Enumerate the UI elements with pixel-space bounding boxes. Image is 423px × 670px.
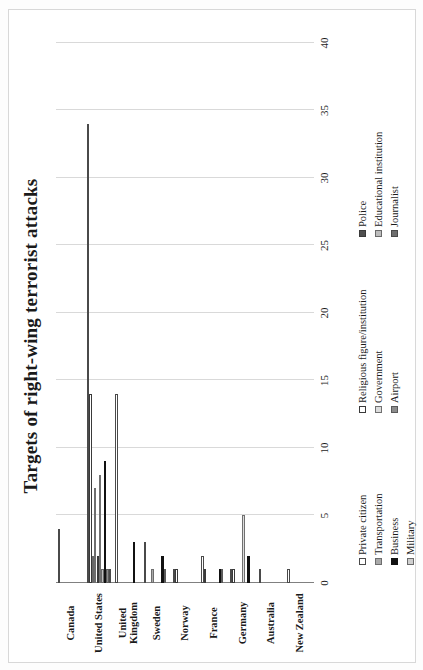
legend-label: Transportation: [373, 494, 384, 555]
chart-legend: Private citizenReligious figure/institut…: [354, 45, 406, 565]
chart-title: Targets of right-wing terrorist attacks: [20, 11, 42, 661]
legend-item[interactable]: Private citizen: [354, 419, 370, 565]
legend-item[interactable]: Government: [370, 243, 386, 413]
bar: [58, 529, 60, 583]
bar-group: [142, 43, 171, 583]
legend-swatch-icon: [391, 558, 398, 565]
bar: [204, 570, 206, 584]
bar: [104, 462, 106, 584]
bar: [89, 394, 91, 583]
bar: [287, 570, 289, 584]
value-axis-tick: 5: [318, 513, 330, 519]
legend-item[interactable]: Business: [386, 419, 402, 565]
legend-item[interactable]: Airport: [386, 243, 402, 413]
legend-item[interactable]: Transportation: [370, 419, 386, 565]
legend-item[interactable]: Police: [354, 105, 370, 237]
legend-label: Religious figure/institution: [357, 290, 368, 403]
category-label: France: [199, 587, 228, 659]
bar: [259, 570, 261, 584]
bar-group: [199, 43, 228, 583]
legend-swatch-icon: [375, 230, 382, 237]
bar: [221, 570, 223, 584]
bar-group: [228, 43, 257, 583]
bar-group: [285, 43, 314, 583]
bar: [175, 570, 177, 584]
bar: [242, 516, 244, 584]
legend-item[interactable]: Religious figure/institution: [354, 243, 370, 413]
bar-group: [85, 43, 114, 583]
bar: [164, 570, 166, 584]
category-label: Sweden: [142, 587, 171, 659]
chart-frame: Targets of right-wing terrorist attacks …: [8, 9, 416, 663]
category-label: United States: [85, 587, 114, 659]
value-axis-tick: 20: [318, 308, 330, 319]
category-label: Australia: [257, 587, 286, 659]
legend-swatch-icon: [359, 230, 366, 237]
legend-swatch-icon: [375, 406, 382, 413]
legend-label: Military: [405, 521, 416, 555]
bar: [133, 543, 135, 584]
category-label: New Zealand: [285, 587, 314, 659]
value-axis-tick: 0: [318, 580, 330, 586]
category-label: Germany: [228, 587, 257, 659]
value-axis-tick: 30: [318, 173, 330, 184]
value-axis-tick: 40: [318, 38, 330, 49]
legend-label: Government: [373, 351, 384, 404]
bar-group: [56, 43, 85, 583]
chart-page: Targets of right-wing terrorist attacks …: [0, 0, 423, 670]
value-axis-tick: 10: [318, 443, 330, 454]
plot-area: [56, 43, 314, 583]
bar: [99, 475, 101, 583]
legend-swatch-icon: [391, 406, 398, 413]
category-label: United Kingdom: [113, 587, 142, 659]
value-axis-tick: 35: [318, 105, 330, 116]
value-axis-tick: 15: [318, 375, 330, 386]
legend-label: Business: [389, 518, 400, 555]
bar-group: [171, 43, 200, 583]
legend-swatch-icon: [391, 230, 398, 237]
bar-group: [113, 43, 142, 583]
category-label: Norway: [171, 587, 200, 659]
category-label: Canada: [56, 587, 85, 659]
legend-label: Police: [357, 201, 368, 227]
value-axis-tick: 25: [318, 240, 330, 251]
legend-label: Private citizen: [357, 495, 368, 555]
legend-item[interactable]: Educational institution: [370, 105, 386, 237]
legend-item[interactable]: Journalist: [386, 105, 402, 237]
chart-area: Targets of right-wing terrorist attacks …: [10, 11, 414, 661]
legend-swatch-icon: [359, 558, 366, 565]
bar: [109, 570, 111, 584]
legend-label: Airport: [389, 372, 400, 403]
bar: [144, 543, 146, 584]
value-axis: 0510152025303540: [316, 43, 336, 583]
bar-group: [257, 43, 286, 583]
legend-label: Educational institution: [373, 132, 384, 227]
legend-label: Journalist: [389, 186, 400, 227]
legend-swatch-icon: [359, 406, 366, 413]
bar: [232, 570, 234, 584]
rotated-chart-wrapper: Targets of right-wing terrorist attacks …: [10, 11, 414, 661]
bar: [247, 556, 249, 583]
bar: [151, 570, 153, 584]
legend-item[interactable]: Military: [402, 419, 418, 565]
legend-swatch-icon: [375, 558, 382, 565]
legend-swatch-icon: [407, 558, 414, 565]
bar: [115, 394, 117, 583]
